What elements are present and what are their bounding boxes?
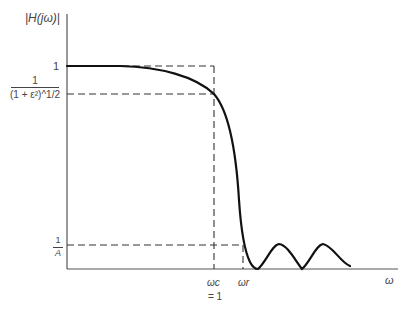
y-tick-one: 1: [53, 61, 59, 72]
y-tick-passband-edge: 1 (1 + ε²)^1/2: [10, 75, 60, 100]
magnitude-response-curve: [67, 66, 350, 269]
x-tick-wc-note: = 1: [208, 292, 222, 302]
passband-edge-numerator: 1: [10, 75, 60, 87]
stopband-denominator: A: [53, 248, 63, 259]
y-axis-label: |H(jω)|: [25, 12, 60, 24]
y-tick-stopband: 1 A: [53, 236, 63, 259]
x-tick-wc: ωc: [207, 278, 220, 288]
filter-response-plot: [0, 0, 413, 313]
stopband-numerator: 1: [53, 236, 63, 248]
passband-edge-denominator: (1 + ε²)^1/2: [10, 88, 60, 100]
x-axis-label: ω: [385, 275, 394, 286]
y-axis-label-text: |H(jω)|: [25, 11, 60, 25]
x-tick-wr: ωr: [238, 278, 249, 288]
